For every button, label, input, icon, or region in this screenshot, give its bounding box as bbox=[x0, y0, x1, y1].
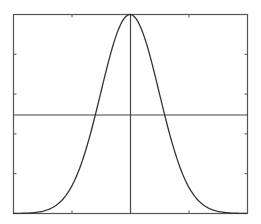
reference-lines bbox=[13, 14, 248, 214]
gaussian-plot bbox=[0, 0, 261, 224]
